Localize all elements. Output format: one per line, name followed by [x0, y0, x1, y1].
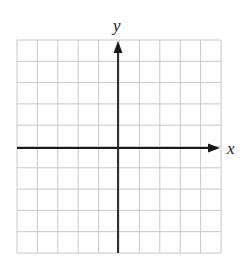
y-axis-label: y — [111, 16, 121, 35]
x-axis-label: x — [226, 139, 235, 158]
y-axis-arrow-icon — [114, 41, 123, 53]
grid-lines — [17, 40, 221, 253]
coordinate-plane: x y — [0, 0, 249, 268]
x-axis-arrow-icon — [208, 144, 220, 153]
